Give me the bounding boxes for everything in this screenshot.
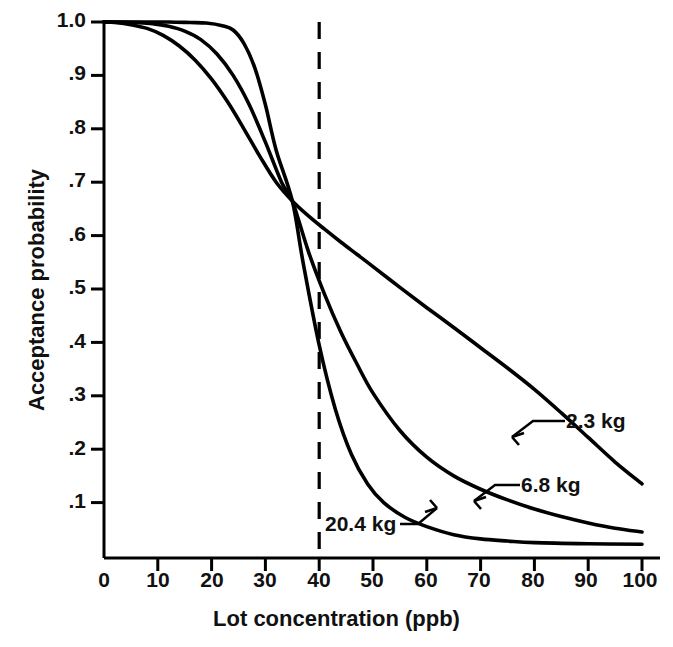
y-tick-label-0.8: .8 <box>14 115 86 139</box>
x-tick-label-80: 80 <box>503 568 563 592</box>
y-tick-label-0.2: .2 <box>14 436 86 460</box>
series-curve-20-4-kg <box>104 22 642 544</box>
chart-figure: 1.0 .9 .8 .7 .6 .5 .4 .3 .2 .1 0 10 20 3… <box>0 0 673 647</box>
series-label-6-8kg: 6.8 kg <box>521 473 581 497</box>
x-tick-label-40: 40 <box>289 568 349 592</box>
x-tick-label-0: 0 <box>74 568 134 592</box>
data-curves <box>104 22 642 544</box>
x-tick-label-10: 10 <box>128 568 188 592</box>
x-tick-label-60: 60 <box>396 568 456 592</box>
x-axis-title: Lot concentration (ppb) <box>0 606 673 632</box>
x-tick-label-90: 90 <box>556 568 616 592</box>
x-tick-label-50: 50 <box>342 568 402 592</box>
y-tick-label-0.9: .9 <box>14 61 86 85</box>
y-tick-label-1.0: 1.0 <box>14 8 86 32</box>
x-tick-label-20: 20 <box>182 568 242 592</box>
y-tick-label-0.1: .1 <box>14 489 86 513</box>
series-curve-6-8-kg <box>104 22 642 532</box>
y-axis-title: Acceptance probability <box>24 171 50 411</box>
series-label-2-3kg: 2.3 kg <box>566 409 626 433</box>
plot-area <box>0 0 673 647</box>
y-axis-ticks <box>91 22 104 503</box>
series-curve-2-3-kg <box>104 22 642 484</box>
series-label-20-4kg: 20.4 kg <box>325 512 396 536</box>
x-tick-label-70: 70 <box>449 568 509 592</box>
x-tick-label-30: 30 <box>235 568 295 592</box>
x-tick-label-100: 100 <box>610 568 670 592</box>
